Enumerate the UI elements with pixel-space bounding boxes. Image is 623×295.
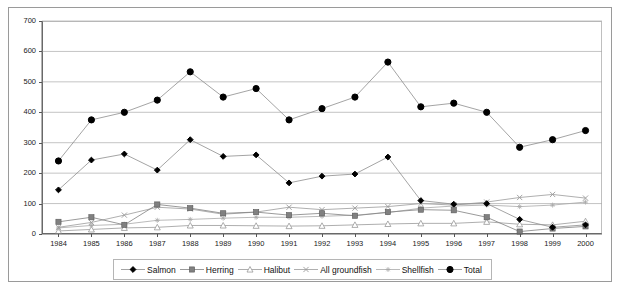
- y-axis-tick: [39, 173, 42, 174]
- data-point-circle-marker: [549, 137, 555, 143]
- legend-item-total[interactable]: Total: [437, 264, 485, 275]
- data-point-circle-marker: [484, 109, 490, 115]
- x-axis-tick-label: 1992: [307, 239, 337, 248]
- legend-item-halibut[interactable]: Halibut: [237, 264, 293, 275]
- legend-label: Shellfish: [401, 265, 437, 275]
- data-point-circle-marker: [385, 59, 391, 65]
- y-axis-tick: [39, 82, 42, 83]
- y-axis-tick-label: 300: [12, 139, 36, 147]
- series-total: [55, 59, 588, 164]
- x-axis-tick: [355, 234, 356, 237]
- data-point-circle-marker: [121, 109, 127, 115]
- data-point-diamond-marker: [352, 171, 358, 177]
- data-point-circle-marker: [319, 106, 325, 112]
- x-axis-tick-label: 1999: [538, 239, 568, 248]
- series-halibut: [55, 218, 588, 233]
- data-point-asterisk-marker: [550, 203, 555, 208]
- data-point-circle-marker: [55, 158, 61, 164]
- data-point-diamond-marker: [220, 154, 226, 160]
- legend-item-all-groundfish[interactable]: All groundfish: [293, 264, 375, 275]
- legend-item-shellfish[interactable]: Shellfish: [375, 264, 437, 275]
- x-axis-tick-label: 1985: [76, 239, 106, 248]
- legend-cross-icon: [293, 264, 319, 275]
- data-point-circle-marker: [447, 266, 453, 272]
- x-axis-tick: [322, 234, 323, 237]
- x-axis-tick-label: 1986: [109, 239, 139, 248]
- data-point-square-marker: [221, 211, 226, 216]
- x-axis-tick-label: 1997: [472, 239, 502, 248]
- x-axis-tick-label: 1991: [274, 239, 304, 248]
- data-point-circle-marker: [418, 104, 424, 110]
- data-point-diamond-marker: [130, 267, 136, 273]
- data-point-square-marker: [89, 215, 94, 220]
- x-axis-tick-label: 1998: [505, 239, 535, 248]
- y-axis-tick: [39, 204, 42, 205]
- data-point-square-marker: [155, 202, 160, 207]
- x-axis-tick: [124, 234, 125, 237]
- y-axis-tick: [39, 21, 42, 22]
- data-point-square-marker: [189, 267, 194, 272]
- data-point-circle-marker: [187, 69, 193, 75]
- legend-item-salmon[interactable]: Salmon: [120, 264, 179, 275]
- x-axis-tick: [256, 234, 257, 237]
- x-axis-tick: [58, 234, 59, 237]
- chart-frame: 0100200300400500600700 19841985198619871…: [8, 7, 612, 282]
- data-point-square-marker: [451, 208, 456, 213]
- data-point-circle-marker: [582, 127, 588, 133]
- y-axis-tick-label: 500: [12, 78, 36, 86]
- legend-label: Herring: [205, 265, 237, 275]
- data-point-square-marker: [385, 209, 390, 214]
- x-axis-tick: [190, 234, 191, 237]
- line-chart-svg: [42, 21, 602, 234]
- data-point-asterisk-marker: [517, 204, 522, 209]
- chart-legend: SalmonHerringHalibutAll groundfishShellf…: [113, 259, 492, 280]
- y-axis-tick-label: 600: [12, 47, 36, 55]
- x-axis-tick: [289, 234, 290, 237]
- y-axis-tick: [39, 112, 42, 113]
- data-point-square-marker: [286, 213, 291, 218]
- x-axis-tick-label: 2000: [571, 239, 601, 248]
- x-axis-tick: [157, 234, 158, 237]
- y-axis-tick-label: 400: [12, 108, 36, 116]
- x-axis-tick-label: 1993: [340, 239, 370, 248]
- data-point-circle-marker: [220, 94, 226, 100]
- x-axis-tick: [487, 234, 488, 237]
- y-axis-tick: [39, 51, 42, 52]
- data-point-circle-marker: [154, 97, 160, 103]
- data-point-square-marker: [188, 206, 193, 211]
- x-axis-tick-label: 1989: [208, 239, 238, 248]
- data-point-asterisk-marker: [155, 218, 160, 223]
- legend-label: Total: [463, 265, 485, 275]
- x-axis-tick: [586, 234, 587, 237]
- legend-item-herring[interactable]: Herring: [179, 264, 237, 275]
- legend-asterisk-icon: [375, 264, 401, 275]
- data-point-square-marker: [56, 219, 61, 224]
- x-axis-tick-label: 1988: [175, 239, 205, 248]
- data-point-circle-marker: [88, 117, 94, 123]
- x-axis-tick-label: 1987: [142, 239, 172, 248]
- legend-label: Salmon: [146, 265, 179, 275]
- data-point-asterisk-marker: [188, 217, 193, 222]
- legend-label: Halibut: [263, 265, 293, 275]
- data-point-diamond-marker: [121, 151, 127, 157]
- data-point-circle-marker: [451, 100, 457, 106]
- data-point-circle-marker: [352, 94, 358, 100]
- y-axis-tick: [39, 234, 42, 235]
- x-axis-tick-label: 1994: [373, 239, 403, 248]
- x-axis-tick: [91, 234, 92, 237]
- x-axis-tick: [421, 234, 422, 237]
- data-point-circle-marker: [253, 85, 259, 91]
- y-axis-tick: [39, 143, 42, 144]
- x-axis-tick-label: 1984: [43, 239, 73, 248]
- data-point-asterisk-marker: [385, 267, 390, 272]
- y-axis-tick-label: 100: [12, 200, 36, 208]
- x-axis-tick-label: 1996: [439, 239, 469, 248]
- x-axis-tick: [223, 234, 224, 237]
- x-axis-tick-label: 1995: [406, 239, 436, 248]
- data-point-square-marker: [484, 215, 489, 220]
- data-point-diamond-marker: [517, 216, 523, 222]
- legend-diamond-icon: [120, 264, 146, 275]
- plot-wrapper: 0100200300400500600700 19841985198619871…: [42, 21, 602, 242]
- x-axis-tick: [553, 234, 554, 237]
- data-point-square-marker: [352, 213, 357, 218]
